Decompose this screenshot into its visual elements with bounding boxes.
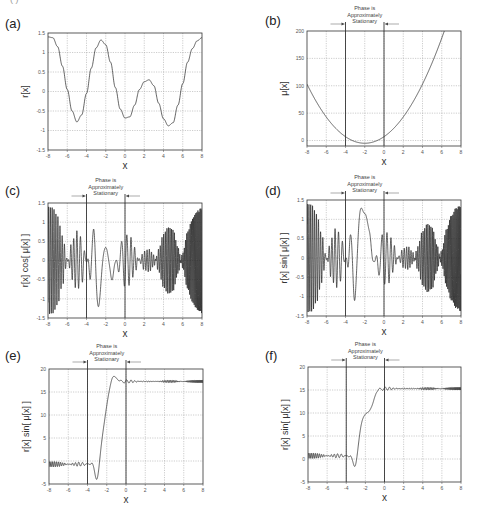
svg-text:0: 0	[383, 319, 386, 325]
svg-text:0: 0	[383, 149, 386, 155]
arrow-right-icon	[84, 361, 87, 364]
svg-text:-8: -8	[306, 485, 311, 491]
svg-text:Stationary: Stationary	[352, 187, 377, 193]
svg-text:-1: -1	[300, 293, 305, 299]
svg-text:8: 8	[460, 319, 463, 325]
svg-text:-8: -8	[305, 319, 310, 325]
svg-text:50: 50	[298, 110, 304, 116]
svg-text:-2: -2	[105, 487, 110, 493]
svg-text:4: 4	[421, 485, 424, 491]
axis-ticks: -8-6-4-2024681.510.50-0.5-1-1.5	[36, 30, 203, 159]
svg-text:Stationary: Stationary	[93, 190, 118, 196]
svg-text:15: 15	[40, 389, 46, 395]
y-axis-label: r[x] sin[ μ[x] ]	[280, 399, 290, 450]
svg-text:8: 8	[460, 485, 463, 491]
svg-text:-0.5: -0.5	[36, 108, 45, 114]
arrow-right-icon	[342, 23, 345, 26]
x-axis-label: x	[123, 328, 128, 339]
svg-text:2: 2	[402, 149, 405, 155]
arrow-left-icon	[126, 195, 129, 198]
svg-text:Phase is: Phase is	[354, 174, 375, 180]
svg-text:20: 20	[40, 366, 46, 372]
svg-text:0: 0	[42, 88, 45, 94]
svg-text:1.5: 1.5	[38, 200, 45, 206]
svg-text:8: 8	[201, 153, 204, 159]
svg-text:-1.5: -1.5	[295, 313, 304, 319]
svg-text:0: 0	[302, 456, 305, 462]
x-axis-label: x	[382, 156, 387, 167]
svg-text:-1.5: -1.5	[36, 147, 45, 153]
svg-text:-8: -8	[47, 487, 52, 493]
svg-text:0: 0	[43, 458, 46, 464]
svg-text:1: 1	[42, 49, 45, 55]
svg-text:-6: -6	[325, 485, 330, 491]
svg-text:200: 200	[296, 28, 305, 34]
svg-text:-4: -4	[344, 485, 349, 491]
svg-text:1: 1	[42, 219, 45, 225]
svg-text:5: 5	[302, 433, 305, 439]
svg-text:-5: -5	[42, 481, 47, 487]
svg-text:Phase is: Phase is	[354, 5, 375, 11]
svg-text:Approximately: Approximately	[89, 350, 124, 356]
svg-text:4: 4	[421, 149, 424, 155]
svg-text:0: 0	[42, 257, 45, 263]
x-axis-label: x	[382, 326, 387, 337]
svg-text:2: 2	[143, 321, 146, 327]
svg-text:-1.5: -1.5	[36, 315, 45, 321]
svg-text:0: 0	[383, 485, 386, 491]
svg-text:2: 2	[402, 319, 405, 325]
svg-text:150: 150	[296, 55, 305, 61]
svg-text:0.5: 0.5	[297, 235, 304, 241]
svg-text:15: 15	[299, 387, 305, 393]
svg-text:-6: -6	[324, 319, 329, 325]
svg-text:6: 6	[440, 149, 443, 155]
svg-text:-4: -4	[343, 149, 348, 155]
svg-text:-6: -6	[65, 153, 70, 159]
chart-c: -8-6-4-2024681.510.50-0.5-1-1.5xr[x] cos…	[20, 177, 204, 339]
svg-text:2: 2	[143, 153, 146, 159]
y-axis-label: r[x]	[20, 85, 30, 98]
arrow-left-icon	[385, 23, 388, 26]
svg-text:8: 8	[460, 149, 463, 155]
svg-text:0: 0	[301, 137, 304, 143]
svg-text:-0.5: -0.5	[36, 276, 45, 282]
chart-e: -8-6-4-20246820151050-5xr[x] sin[ μ[x] ]…	[21, 343, 205, 505]
x-axis-label: x	[382, 492, 387, 503]
svg-text:2: 2	[144, 487, 147, 493]
svg-text:Approximately: Approximately	[88, 184, 123, 190]
svg-text:Approximately: Approximately	[347, 12, 382, 18]
svg-text:-8: -8	[46, 153, 51, 159]
svg-text:10: 10	[299, 410, 305, 416]
svg-text:8: 8	[201, 321, 204, 327]
svg-text:Phase is: Phase is	[95, 177, 116, 183]
svg-text:6: 6	[181, 321, 184, 327]
chart-b: -8-6-4-202468200150100500xμ[x]Phase isAp…	[279, 0, 463, 167]
svg-text:2: 2	[402, 485, 405, 491]
svg-text:10: 10	[40, 412, 46, 418]
svg-text:-2: -2	[363, 319, 368, 325]
svg-text:-8: -8	[305, 149, 310, 155]
svg-text:0: 0	[125, 487, 128, 493]
svg-text:5: 5	[43, 435, 46, 441]
svg-text:-6: -6	[65, 321, 70, 327]
svg-text:100: 100	[296, 83, 305, 89]
svg-text:4: 4	[163, 487, 166, 493]
gridlines	[48, 33, 202, 150]
arrow-right-icon	[342, 359, 345, 362]
arrow-left-icon	[385, 192, 388, 195]
arrow-left-icon	[386, 359, 389, 362]
svg-text:1.5: 1.5	[38, 30, 45, 36]
svg-text:-2: -2	[363, 485, 368, 491]
svg-text:Approximately: Approximately	[347, 181, 382, 187]
axis-ticks: -8-6-4-20246820151050-5	[299, 364, 462, 491]
svg-text:6: 6	[440, 485, 443, 491]
figure-canvas: -8-6-4-2024681.510.50-0.5-1-1.5xr[x]-8-6…	[0, 0, 479, 518]
svg-text:1.5: 1.5	[297, 197, 304, 203]
y-axis-label: μ[x]	[279, 81, 289, 96]
svg-text:-2: -2	[363, 149, 368, 155]
svg-text:-4: -4	[343, 319, 348, 325]
svg-text:6: 6	[181, 153, 184, 159]
svg-text:-0.5: -0.5	[295, 274, 304, 280]
svg-text:-4: -4	[84, 321, 89, 327]
chart-d: -8-6-4-2024681.510.50-0.5-1-1.5xr[x] sin…	[279, 174, 463, 337]
